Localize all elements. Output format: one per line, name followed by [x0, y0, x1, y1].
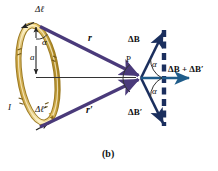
delta-B-prime-vector: [141, 78, 163, 123]
figure-caption: (b): [102, 149, 114, 159]
delta-B-vector: [141, 33, 163, 78]
label-delta-l-prime: Δℓ′: [35, 105, 46, 114]
label-delta-B: ΔB: [128, 35, 140, 44]
label-r-prime: r′: [86, 105, 93, 115]
label-alpha-top: α: [42, 38, 47, 47]
diagram-canvas: [0, 0, 218, 171]
label-delta-B-prime: ΔB′: [128, 108, 142, 117]
label-point-P: P: [126, 55, 131, 64]
physics-diagram-figure: Δℓ α a I Δℓ′ r r′ P ΔB ΔB′ α α ΔB + ΔB′ …: [0, 0, 218, 171]
label-delta-l: Δℓ: [35, 5, 44, 14]
label-radius-a: a: [30, 53, 35, 62]
label-current-I: I: [8, 103, 11, 112]
label-r: r: [88, 33, 92, 43]
label-alpha-upper: α: [152, 60, 157, 69]
label-alpha-lower: α: [152, 87, 157, 96]
label-resultant: ΔB + ΔB′: [168, 65, 203, 74]
